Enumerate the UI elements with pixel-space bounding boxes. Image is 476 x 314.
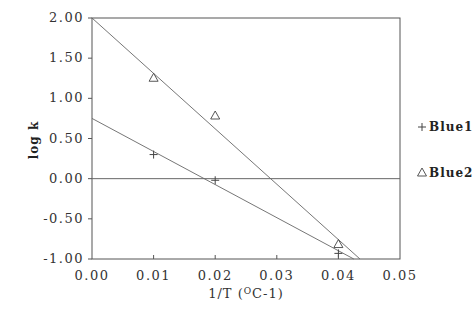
x-tick-label: 0.04: [321, 268, 356, 283]
fit-lines: [92, 18, 360, 259]
x-axis-label-suffix: C-1): [252, 286, 284, 301]
fit-line-blue2: [92, 18, 360, 259]
plot-frame: [92, 18, 400, 259]
data-markers: [149, 73, 343, 257]
x-tick-label: 0.02: [198, 268, 233, 283]
x-tick-label: 0.00: [75, 268, 110, 283]
x-tick-label: 0.01: [136, 268, 171, 283]
y-tick-label: 0.50: [49, 131, 84, 146]
legend-triangle-icon: [418, 168, 427, 176]
x-tick-label: 0.05: [383, 268, 418, 283]
triangle-marker-icon: [211, 111, 220, 119]
y-tick-label: -0.50: [43, 211, 84, 226]
x-axis-label: 1/T (OC-1): [208, 286, 284, 301]
plot-border: [92, 18, 400, 259]
y-tick-label: 1.00: [49, 90, 84, 105]
y-axis-label: log k: [27, 121, 41, 159]
legend-label: Blue2: [429, 166, 473, 180]
fit-line-blue1: [92, 118, 354, 259]
legend-label: Blue1: [429, 120, 473, 134]
x-axis-label-degree: O: [244, 286, 252, 296]
triangle-marker-icon: [334, 240, 343, 248]
legend: Blue1Blue2: [418, 120, 474, 180]
plus-marker-icon: [150, 151, 158, 159]
legend-plus-icon: [418, 123, 426, 131]
y-axis-ticks: 2.001.501.000.500.00-0.50-1.00: [43, 10, 92, 266]
chart-canvas: 2.001.501.000.500.00-0.50-1.00 0.000.010…: [0, 0, 476, 314]
x-tick-label: 0.03: [259, 268, 294, 283]
y-tick-label: 0.00: [49, 171, 84, 186]
triangle-marker-icon: [149, 73, 158, 81]
x-axis-label-prefix: 1/T (: [208, 286, 244, 301]
y-tick-label: -1.00: [43, 251, 84, 266]
y-tick-label: 2.00: [49, 10, 84, 25]
y-tick-label: 1.50: [49, 50, 84, 65]
